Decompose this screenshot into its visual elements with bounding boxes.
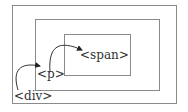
arrows (0, 0, 188, 112)
arrow-div-to-p (16, 65, 40, 90)
arrow-p-to-span (50, 45, 82, 72)
